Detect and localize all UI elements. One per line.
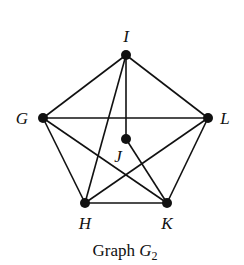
graph-diagram: IGLJHK Graph G2 [0, 0, 244, 265]
edge-L-K [167, 118, 208, 203]
caption-subscript: 2 [152, 249, 158, 263]
caption-prefix: Graph [92, 241, 139, 260]
node-G [38, 113, 48, 123]
node-label-K: K [160, 214, 174, 233]
node-L [203, 113, 213, 123]
edge-I-L [126, 55, 208, 118]
node-H [80, 198, 90, 208]
graph-caption: Graph G2 [92, 241, 157, 263]
edge-I-G [43, 55, 126, 118]
edge-I-H [85, 55, 126, 203]
node-K [162, 198, 172, 208]
node-label-G: G [16, 109, 28, 128]
node-label-L: L [219, 109, 229, 128]
edge-L-H [85, 118, 208, 203]
node-label-I: I [122, 27, 130, 46]
node-J [121, 134, 131, 144]
node-label-J: J [114, 147, 123, 166]
caption-symbol: G [139, 241, 151, 260]
graph-edges [43, 55, 208, 203]
node-label-H: H [78, 214, 93, 233]
node-I [121, 50, 131, 60]
edge-G-H [43, 118, 85, 203]
